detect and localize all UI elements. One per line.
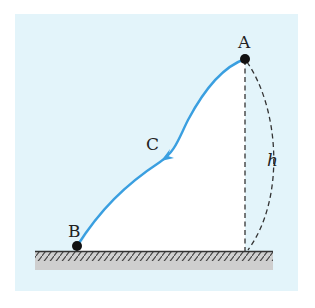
point-a-marker — [240, 54, 250, 64]
label-point-a: A — [237, 32, 251, 52]
ground-hatch — [35, 252, 273, 261]
point-b-marker — [72, 241, 82, 251]
label-point-c: C — [146, 134, 159, 154]
label-height-h: h — [267, 150, 278, 170]
label-point-b: B — [68, 221, 81, 241]
physics-diagram: A C B h — [0, 0, 315, 308]
